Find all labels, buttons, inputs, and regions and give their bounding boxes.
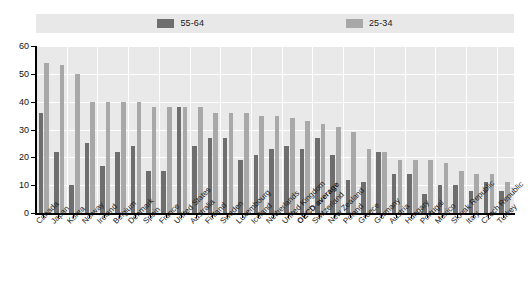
legend-swatch-icon-55-64 — [157, 19, 174, 28]
legend-swatch-icon-25-34 — [346, 19, 363, 28]
y-tick-label: 10 — [9, 180, 29, 190]
bar-25-34[interactable] — [137, 102, 142, 213]
y-tick-mark — [31, 213, 36, 214]
chart-root: 55-64 25-34 0102030405060 CanadaJapanKor… — [0, 0, 528, 281]
y-tick-label: 50 — [9, 69, 29, 79]
x-axis-category-labels: CanadaJapanKoreaNorwayIrelandBelgiumDenm… — [0, 218, 528, 281]
bar-group[interactable] — [131, 46, 146, 213]
legend-item-25-34[interactable]: 25-34 — [346, 19, 393, 28]
bar-group[interactable] — [238, 46, 253, 213]
bar-group[interactable] — [39, 46, 54, 213]
bar-group[interactable] — [269, 46, 284, 213]
bar-group[interactable] — [392, 46, 407, 213]
y-tick-label: 0 — [9, 208, 29, 218]
bar-25-34[interactable] — [229, 113, 234, 213]
legend-label-25-34: 25-34 — [369, 19, 393, 28]
bar-25-34[interactable] — [244, 113, 249, 213]
bar-group[interactable] — [85, 46, 100, 213]
bar-group[interactable] — [376, 46, 391, 213]
bar-25-34[interactable] — [167, 107, 172, 213]
bar-25-34[interactable] — [90, 102, 95, 213]
bar-group[interactable] — [177, 46, 192, 213]
bar-25-34[interactable] — [44, 63, 49, 213]
y-tick-mark — [31, 130, 36, 131]
legend-label-55-64: 55-64 — [180, 19, 204, 28]
y-tick-mark — [31, 157, 36, 158]
bar-55-64[interactable] — [177, 107, 182, 213]
chart-legend: 55-64 25-34 — [36, 14, 514, 33]
bar-group[interactable] — [284, 46, 299, 213]
bar-group[interactable] — [453, 46, 468, 213]
bar-25-34[interactable] — [275, 116, 280, 213]
y-tick-label: 60 — [9, 41, 29, 51]
legend-item-55-64[interactable]: 55-64 — [157, 19, 204, 28]
bar-25-34[interactable] — [106, 102, 111, 213]
bar-55-64[interactable] — [39, 113, 44, 213]
bar-25-34[interactable] — [183, 107, 188, 213]
y-tick-mark — [31, 102, 36, 103]
bar-group[interactable] — [100, 46, 115, 213]
bar-group[interactable] — [69, 46, 84, 213]
bar-group[interactable] — [223, 46, 238, 213]
y-tick-mark — [31, 185, 36, 186]
bar-group[interactable] — [161, 46, 176, 213]
bar-group[interactable] — [146, 46, 161, 213]
bar-group[interactable] — [407, 46, 422, 213]
bar-25-34[interactable] — [152, 107, 157, 213]
bar-group[interactable] — [115, 46, 130, 213]
bar-25-34[interactable] — [213, 113, 218, 213]
y-tick-mark — [31, 74, 36, 75]
bar-group[interactable] — [361, 46, 376, 213]
bar-55-64[interactable] — [161, 171, 166, 213]
y-tick-label: 40 — [9, 97, 29, 107]
bar-series-container — [37, 46, 513, 213]
bar-group[interactable] — [54, 46, 69, 213]
y-tick-label: 20 — [9, 152, 29, 162]
bar-55-64[interactable] — [115, 152, 120, 213]
bar-group[interactable] — [438, 46, 453, 213]
bar-25-34[interactable] — [75, 74, 80, 213]
bar-25-34[interactable] — [60, 65, 65, 213]
bar-55-64[interactable] — [85, 143, 90, 213]
y-tick-label: 30 — [9, 125, 29, 135]
bar-25-34[interactable] — [121, 102, 126, 213]
bar-group[interactable] — [422, 46, 437, 213]
y-tick-mark — [31, 46, 36, 47]
